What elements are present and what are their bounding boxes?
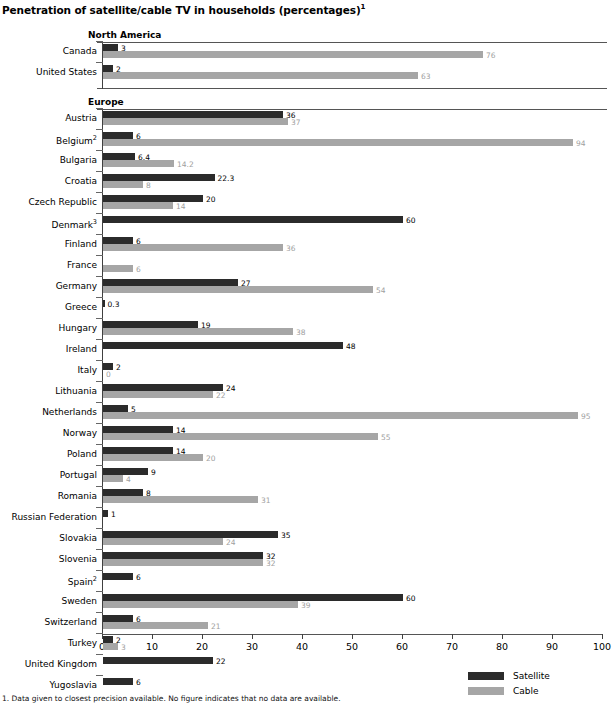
x-axis-tick-70: [452, 634, 453, 639]
region-header-europe: Europe: [88, 97, 124, 107]
category-tick: [96, 255, 103, 256]
bar-satellite-lithuania: [103, 384, 223, 391]
bar-cable-sweden: [103, 601, 298, 608]
category-label-russian-federation: Russian Federation: [0, 512, 97, 522]
category-label-text: Slovenia: [59, 554, 97, 564]
bar-satellite-sweden: [103, 594, 403, 601]
bar-satellite-spain: [103, 573, 133, 580]
x-axis-tick-label-20: 20: [187, 641, 217, 652]
category-tick: [96, 591, 103, 592]
bar-value-cable: 94: [576, 140, 586, 147]
category-label-text: Switzerland: [45, 617, 98, 627]
bar-cable-bulgaria: [103, 160, 174, 167]
bar-value-satellite: 60: [406, 595, 416, 602]
category-label-text: Romania: [58, 491, 97, 501]
category-label-denmark: Denmark3: [0, 218, 97, 230]
x-axis-tick-50: [352, 634, 353, 639]
category-label-text: Croatia: [65, 176, 97, 186]
bar-satellite-bulgaria: [103, 153, 135, 160]
bar-value-satellite: 22: [216, 658, 226, 665]
category-label-text: Sweden: [61, 596, 97, 606]
bar-cable-austria: [103, 118, 288, 125]
category-label-text: Bulgaria: [60, 155, 97, 165]
bar-satellite-ireland: [103, 342, 343, 349]
category-label-text: Lithuania: [55, 386, 97, 396]
bar-cable-united-states: [103, 72, 418, 79]
bar-value-cable: 36: [286, 245, 296, 252]
category-label-france: France: [0, 260, 97, 270]
bar-cable-norway: [103, 433, 378, 440]
bar-value-cable: 14.2: [177, 161, 194, 168]
bar-value-cable: 39: [301, 602, 311, 609]
category-tick: [96, 108, 103, 109]
bar-cable-germany: [103, 286, 373, 293]
bar-value-cable: 0: [106, 371, 111, 378]
category-label-canada: Canada: [0, 46, 97, 56]
bar-value-cable: 95: [581, 413, 591, 420]
category-tick: [96, 528, 103, 529]
bar-value-satellite: 2: [116, 364, 121, 371]
category-tick: [96, 570, 103, 571]
bar-satellite-italy: [103, 363, 113, 370]
bar-cable-romania: [103, 496, 258, 503]
x-axis-tick-label-60: 60: [387, 641, 417, 652]
bar-satellite-norway: [103, 426, 173, 433]
category-label-turkey: Turkey: [0, 638, 97, 648]
region-header-north-america: North America: [88, 30, 161, 40]
category-label-netherlands: Netherlands: [0, 407, 97, 417]
bar-satellite-united-kingdom: [103, 657, 213, 664]
category-label-text: Denmark: [51, 220, 92, 230]
legend-item-satellite: Satellite: [468, 668, 550, 683]
bar-cable-netherlands: [103, 412, 578, 419]
bar-satellite-austria: [103, 111, 283, 118]
bar-cable-canada: [103, 51, 483, 58]
category-tick: [96, 402, 103, 403]
bar-value-satellite: 20: [206, 196, 216, 203]
category-tick: [96, 360, 103, 361]
bar-satellite-turkey: [103, 636, 113, 643]
category-label-text: Poland: [67, 449, 97, 459]
bar-value-cable: 32: [266, 560, 276, 567]
category-label-portugal: Portugal: [0, 470, 97, 480]
x-axis-tick-label-40: 40: [287, 641, 317, 652]
bar-satellite-switzerland: [103, 615, 133, 622]
category-label-text: Finland: [65, 239, 97, 249]
x-axis-tick-label-80: 80: [487, 641, 517, 652]
x-axis-tick-30: [252, 634, 253, 639]
category-footnote-marker: 2: [93, 134, 97, 142]
bar-value-cable: 20: [206, 455, 216, 462]
bar-cable-slovakia: [103, 538, 223, 545]
category-label-text: United States: [36, 67, 97, 77]
bar-value-satellite: 24: [226, 385, 236, 392]
bar-value-cable: 76: [486, 52, 496, 59]
category-label-hungary: Hungary: [0, 323, 97, 333]
category-tick: [96, 192, 103, 193]
category-tick: [96, 297, 103, 298]
category-tick: [96, 150, 103, 151]
category-label-text: Netherlands: [42, 407, 97, 417]
bar-satellite-romania: [103, 489, 143, 496]
category-tick: [96, 129, 103, 130]
bar-value-cable: 6: [136, 266, 141, 273]
x-axis-tick-60: [402, 634, 403, 639]
category-footnote-marker: 3: [93, 218, 97, 226]
category-label-poland: Poland: [0, 449, 97, 459]
category-label-text: Italy: [77, 365, 97, 375]
category-label-united-kingdom: United Kingdom: [0, 659, 97, 669]
category-label-germany: Germany: [0, 281, 97, 291]
bar-satellite-greece: [103, 300, 105, 307]
legend-label-cable: Cable: [513, 686, 539, 696]
legend-swatch-cable-icon: [468, 687, 504, 695]
category-label-bulgaria: Bulgaria: [0, 155, 97, 165]
category-label-slovakia: Slovakia: [0, 533, 97, 543]
bar-value-satellite: 22.3: [218, 175, 235, 182]
bar-satellite-russian-federation: [103, 510, 108, 517]
bar-satellite-hungary: [103, 321, 198, 328]
x-axis-tick-90: [552, 634, 553, 639]
bar-satellite-portugal: [103, 468, 148, 475]
bar-value-satellite: 48: [346, 343, 356, 350]
bar-satellite-slovenia: [103, 552, 263, 559]
category-label-czech-republic: Czech Republic: [0, 197, 97, 207]
bar-satellite-finland: [103, 237, 133, 244]
